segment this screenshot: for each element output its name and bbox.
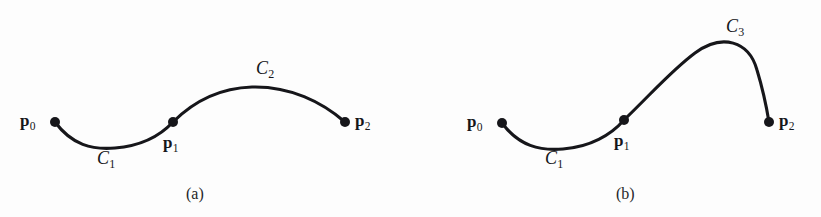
point-label-p0-b-base: p: [467, 112, 476, 131]
curve-label-c2-a-base: C: [256, 58, 268, 78]
curve-label-c2-a-subscript: 2: [268, 67, 274, 81]
curve-label-c1-a-base: C: [97, 148, 109, 168]
panel-a: p0 p1 p2 C1 C2 (a): [0, 0, 410, 217]
point-label-p2-b-base: p: [779, 111, 788, 130]
panel-caption-a: (a): [186, 186, 204, 202]
point-label-p0-a-base: p: [20, 111, 29, 130]
point-label-p1-a-base: p: [163, 133, 172, 152]
point-label-p1-a: p1: [163, 134, 179, 154]
point-label-p2-a-base: p: [355, 111, 364, 130]
curve-label-c2-a: C2: [256, 59, 274, 80]
curve-label-c3-b: C3: [726, 17, 744, 38]
curve-label-c1-a: C1: [97, 149, 115, 170]
curve-label-c1-b: C1: [545, 149, 563, 170]
point-label-p1-b-base: p: [614, 131, 623, 150]
point-label-p2-a-subscript: 2: [365, 120, 371, 132]
point-label-p2-b-subscript: 2: [789, 120, 795, 132]
point-label-p0-b-subscript: 0: [477, 121, 483, 133]
panel-b: p0 p1 p2 C1 C3 (b): [410, 0, 821, 217]
figure-container: p0 p1 p2 C1 C2 (a) p0 p1 p2 C1 C: [0, 0, 821, 217]
curve-label-c3-b-base: C: [726, 16, 738, 36]
point-label-p1-a-subscript: 1: [173, 142, 179, 154]
point-label-p2-b: p2: [779, 112, 795, 132]
curve-label-c1-b-base: C: [545, 148, 557, 168]
point-label-p2-a: p2: [355, 112, 371, 132]
curve-label-c3-b-subscript: 3: [738, 25, 744, 39]
point-label-p1-b-subscript: 1: [624, 140, 630, 152]
point-label-p0-a: p0: [20, 112, 36, 132]
point-label-p1-b: p1: [614, 132, 630, 152]
panel-caption-b: (b): [616, 186, 635, 202]
curve-label-c1-b-subscript: 1: [557, 157, 563, 171]
point-label-p0-a-subscript: 0: [30, 120, 36, 132]
curve-label-c1-a-subscript: 1: [109, 157, 115, 171]
point-label-p0-b: p0: [467, 113, 483, 133]
